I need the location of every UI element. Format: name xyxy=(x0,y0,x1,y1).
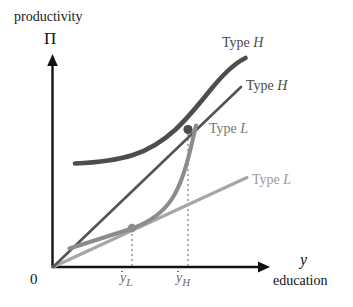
signaling-model-chart: productivity Π 0 yL yH y education Type … xyxy=(0,0,353,307)
legend-label-type-h-line: Type H xyxy=(246,79,287,93)
y-axis-title: productivity xyxy=(14,10,82,24)
high-intersection-point xyxy=(183,125,192,134)
x-axis-arrowhead xyxy=(258,262,270,273)
origin-label: 0 xyxy=(30,272,38,287)
legend-type-h-curve-letter: H xyxy=(253,35,263,50)
legend-type-l-curve-letter: L xyxy=(240,121,248,136)
legend-label-type-l-line: Type L xyxy=(252,173,291,187)
legend-type-l-curve-text: Type xyxy=(209,121,237,136)
type-h-wage-line xyxy=(53,87,241,267)
legend-label-type-h-curve: Type H xyxy=(222,36,263,50)
ybar-high-subscript: H xyxy=(182,276,190,288)
x-axis-symbol: y xyxy=(300,252,307,268)
x-axis-title: education xyxy=(273,274,327,288)
legend-type-h-curve-text: Type xyxy=(222,35,250,50)
ybar-high-base: y xyxy=(176,270,182,285)
legend-type-l-line-text: Type xyxy=(252,172,280,187)
ybar-low-subscript: L xyxy=(126,276,132,288)
x-tick-label-ybar-low: yL xyxy=(120,271,132,288)
ybar-low-glyph: y xyxy=(120,271,126,285)
legend-label-type-l-curve: Type L xyxy=(209,122,248,136)
x-tick-label-ybar-high: yH xyxy=(176,271,190,288)
ybar-high-glyph: y xyxy=(176,271,182,285)
ybar-low-base: y xyxy=(120,270,126,285)
legend-type-h-line-text: Type xyxy=(246,78,274,93)
overbar-high xyxy=(177,271,179,272)
legend-type-h-line-letter: H xyxy=(277,78,287,93)
low-intersection-point xyxy=(128,224,136,232)
y-axis-symbol: Π xyxy=(44,30,56,47)
y-axis-arrowhead xyxy=(47,54,58,66)
type-h-productivity-curve xyxy=(75,58,246,164)
overbar-low xyxy=(121,271,123,272)
legend-type-l-line-letter: L xyxy=(283,172,291,187)
